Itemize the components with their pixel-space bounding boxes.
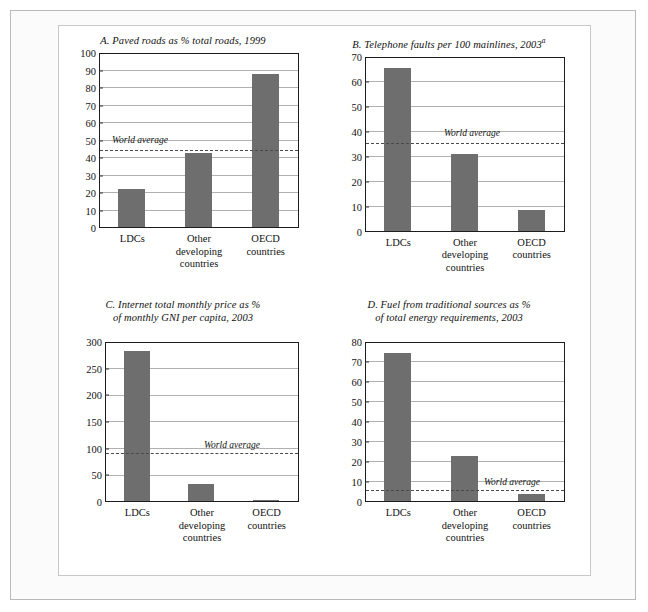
panel-b-title: B. Telephone faults per 100 mainlines, 2… <box>333 34 565 51</box>
y-tick-mark <box>365 402 369 403</box>
y-tick-label: 30 <box>352 151 363 162</box>
y-tick-label: 60 <box>352 377 363 388</box>
panel-c-y-axis: 050100150200250300 <box>67 342 105 502</box>
panel-d: D. Fuel from traditional sources as % of… <box>333 298 577 564</box>
y-tick-mark <box>99 175 103 176</box>
panel-b-title-footnote-marker: a <box>542 36 546 45</box>
bar-other-developing-countries <box>188 484 214 501</box>
panel-a-y-axis: 0102030405060708090100 <box>67 53 99 228</box>
world-average-line <box>106 453 298 454</box>
world-average-label: World average <box>444 128 500 138</box>
panel-b-plot: World average010203040506070LDCsOther de… <box>333 57 577 294</box>
world-average-label: World average <box>112 135 168 145</box>
y-tick-label: 300 <box>86 337 102 348</box>
y-tick-mark <box>365 206 369 207</box>
y-tick-label: 50 <box>352 101 363 112</box>
x-tick-label: Other developing countries <box>442 237 489 275</box>
bar-other-developing-countries <box>451 456 478 501</box>
y-tick-mark <box>105 422 109 423</box>
x-tick-label: Other developing countries <box>442 507 489 545</box>
x-tick-label: LDCs <box>125 507 150 520</box>
panel-c: C. Internet total monthly price as % of … <box>67 298 311 564</box>
bar-oecd-countries <box>518 494 545 501</box>
y-tick-label: 20 <box>86 188 97 199</box>
x-tick-label: OECD countries <box>246 233 285 258</box>
figure-page: A. Paved roads as % total roads, 1999Wor… <box>0 0 648 612</box>
y-tick-label: 100 <box>86 443 102 454</box>
y-tick-mark <box>99 88 103 89</box>
x-tick-label: OECD countries <box>512 237 551 262</box>
y-tick-label: 50 <box>352 397 363 408</box>
x-tick-label: Other developing countries <box>179 507 226 545</box>
world-average-line <box>100 150 298 151</box>
y-tick-label: 70 <box>352 51 363 62</box>
panel-a-plot: World average0102030405060708090100LDCsO… <box>67 53 311 290</box>
y-tick-mark <box>99 123 103 124</box>
panel-c-plot-area: World average <box>105 342 299 502</box>
y-tick-mark <box>365 81 369 82</box>
world-average-label: World average <box>204 440 260 450</box>
y-tick-label: 70 <box>86 100 97 111</box>
y-tick-label: 10 <box>352 477 363 488</box>
y-tick-label: 0 <box>357 226 362 237</box>
panel-c-title: C. Internet total monthly price as % of … <box>67 298 299 324</box>
bar-other-developing-countries <box>451 154 478 230</box>
x-tick-label: OECD countries <box>512 507 551 532</box>
world-average-line <box>366 143 564 144</box>
y-tick-label: 40 <box>86 153 97 164</box>
y-tick-mark <box>365 382 369 383</box>
panel-b: B. Telephone faults per 100 mainlines, 2… <box>333 34 577 294</box>
y-tick-label: 30 <box>86 170 97 181</box>
bar-ldcs <box>124 351 150 501</box>
y-tick-label: 50 <box>92 470 103 481</box>
y-tick-mark <box>365 422 369 423</box>
x-tick-label: LDCs <box>386 507 411 520</box>
y-tick-label: 60 <box>86 118 97 129</box>
x-tick-label: Other developing countries <box>176 233 223 271</box>
y-tick-mark <box>365 106 369 107</box>
panel-a: A. Paved roads as % total roads, 1999Wor… <box>67 34 311 290</box>
y-tick-label: 80 <box>352 337 363 348</box>
y-tick-label: 20 <box>352 457 363 468</box>
y-tick-label: 70 <box>352 357 363 368</box>
figure-panel: A. Paved roads as % total roads, 1999Wor… <box>58 25 591 576</box>
y-tick-label: 200 <box>86 390 102 401</box>
y-tick-label: 20 <box>352 176 363 187</box>
y-tick-mark <box>365 131 369 132</box>
panel-a-plot-area: World average <box>99 53 299 228</box>
y-tick-label: 0 <box>97 497 102 508</box>
bar-ldcs <box>384 353 411 501</box>
panel-d-plot-area: World average <box>365 342 565 502</box>
panel-d-y-axis: 01020304050607080 <box>333 342 365 502</box>
y-tick-label: 150 <box>86 417 102 428</box>
y-tick-mark <box>365 362 369 363</box>
y-tick-mark <box>105 368 109 369</box>
panel-c-plot: World average050100150200250300LDCsOther… <box>67 342 311 564</box>
world-average-label: World average <box>484 477 540 487</box>
y-tick-label: 250 <box>86 363 102 374</box>
panel-b-plot-area: World average <box>365 57 565 232</box>
y-tick-mark <box>99 140 103 141</box>
x-tick-label: OECD countries <box>247 507 286 532</box>
bar-ldcs <box>118 189 145 227</box>
y-tick-label: 10 <box>352 201 363 212</box>
panel-b-y-axis: 010203040506070 <box>333 57 365 232</box>
panel-d-plot: World average01020304050607080LDCsOther … <box>333 342 577 564</box>
bar-oecd-countries <box>253 500 279 502</box>
x-tick-label: LDCs <box>120 233 145 246</box>
y-tick-label: 0 <box>357 497 362 508</box>
y-tick-label: 100 <box>80 48 96 59</box>
y-tick-label: 90 <box>86 65 97 76</box>
x-tick-label: LDCs <box>386 237 411 250</box>
y-tick-mark <box>99 70 103 71</box>
y-tick-mark <box>99 193 103 194</box>
y-tick-mark <box>365 462 369 463</box>
y-tick-label: 40 <box>352 126 363 137</box>
y-tick-mark <box>99 105 103 106</box>
y-tick-label: 0 <box>91 223 96 234</box>
y-tick-mark <box>99 158 103 159</box>
y-tick-mark <box>365 442 369 443</box>
panel-d-title: D. Fuel from traditional sources as % of… <box>333 298 565 324</box>
y-tick-mark <box>105 475 109 476</box>
y-tick-mark <box>105 395 109 396</box>
